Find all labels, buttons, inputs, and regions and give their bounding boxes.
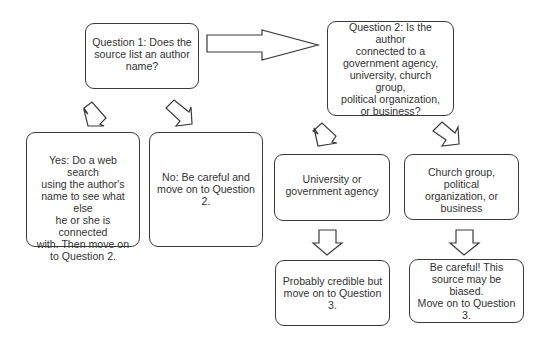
arrow-down-right-icon	[166, 100, 192, 126]
question-1-text: Question 1: Does the source list an auth…	[92, 36, 192, 72]
arrow-down-icon	[313, 230, 342, 255]
university-box: University or government agency	[274, 154, 390, 221]
arrow-down-right-icon	[433, 122, 459, 146]
no-answer-text: No: Be careful and move on to Question 2…	[157, 171, 255, 207]
question-1-box: Question 1: Does the source list an auth…	[85, 23, 199, 89]
university-text: University or government agency	[285, 173, 378, 197]
credible-result-box: Probably credible but move on to Questio…	[275, 260, 390, 326]
biased-result-text: Be careful! This source may be biased. M…	[416, 261, 517, 321]
arrow-down-left-icon	[313, 123, 337, 146]
yes-answer-text: Yes: Do a web search using the author's …	[33, 154, 133, 262]
church-text: Church group, political organization, or…	[411, 166, 512, 214]
question-2-text: Question 2: Is the author connected to a…	[334, 21, 447, 117]
question-2-box: Question 2: Is the author connected to a…	[327, 21, 454, 116]
yes-answer-box: Yes: Do a web search using the author's …	[26, 132, 140, 247]
arrow-down-icon	[450, 230, 479, 255]
credible-result-text: Probably credible but move on to Questio…	[282, 275, 383, 311]
no-answer-box: No: Be careful and move on to Question 2…	[149, 132, 263, 247]
arrow-right-icon	[207, 30, 318, 60]
arrow-down-left-icon	[84, 102, 106, 126]
biased-result-box: Be careful! This source may be biased. M…	[409, 259, 524, 323]
church-box: Church group, political organization, or…	[404, 154, 519, 220]
